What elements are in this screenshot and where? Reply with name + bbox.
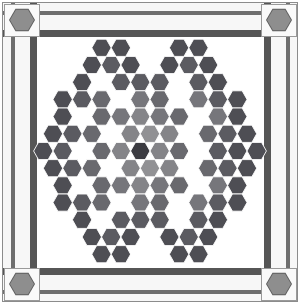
playfield-area[interactable] [37, 37, 264, 268]
frame-rail-left-inner [30, 3, 37, 301]
frame-rail-bottom-outer [3, 290, 297, 294]
frame-rail-right-inner [264, 3, 271, 301]
frame-rail-bottom-inner [3, 268, 297, 275]
frame-rail-top-outer [3, 11, 297, 15]
frame-rail-right-outer [286, 3, 290, 301]
board-root [0, 0, 302, 306]
frame-rail-top-inner [3, 30, 297, 37]
frame-rail-left-outer [11, 3, 15, 301]
